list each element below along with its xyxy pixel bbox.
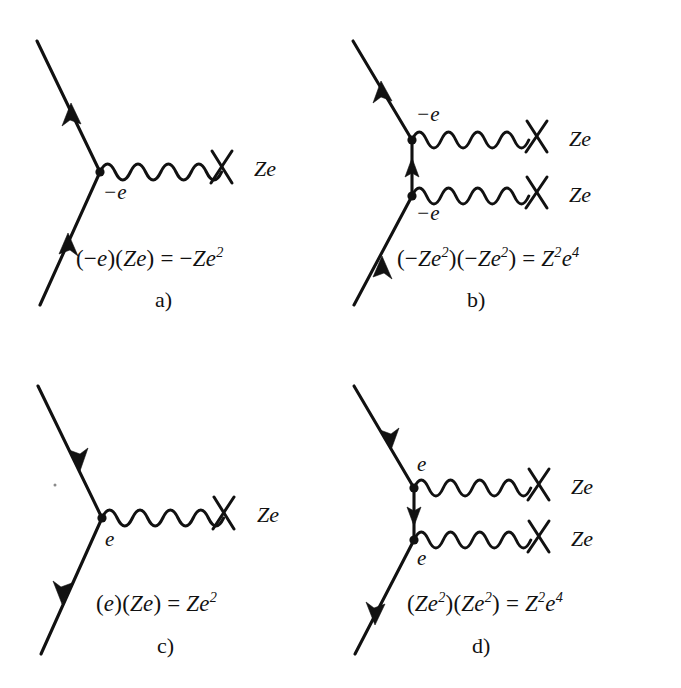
diagram-panel-a: −e Ze (−e)(Ze) = −Ze2 a) [0, 0, 340, 344]
lower-vertex-charge-label-e: e [417, 548, 426, 569]
formula-result-e-exponent: 4 [556, 589, 563, 605]
panel-a-formula: (−e)(Ze) = −Ze2 [76, 245, 223, 270]
lower-leg-arrow-icon [366, 602, 385, 625]
panel-b-formula: (−Ze2)(−Ze2) = Z2e4 [397, 245, 579, 270]
formula-close-open-paren: )( [114, 591, 130, 616]
lower-vertex-charge-label-minus-e: −e [416, 203, 440, 224]
lower-fermion-leg [355, 540, 414, 654]
formula-f1-e: e [431, 246, 441, 271]
formula-open-paren: (− [76, 246, 97, 271]
feynman-diagram-figure: −e Ze (−e)(Ze) = −Ze2 a) − [0, 0, 681, 688]
lower-interaction-vertex-dot [409, 535, 418, 544]
formula-result-e: e [199, 591, 209, 616]
scan-speck [54, 484, 57, 487]
upper-source-charge-label-ze: Ze [571, 476, 593, 498]
upper-photon-wavy-line [414, 480, 531, 496]
formula-result-Z: Z [193, 246, 206, 271]
upper-source-charge-label-ze: Ze [569, 128, 591, 150]
formula-result-Z: Z [541, 246, 554, 271]
formula-f2-e: e [474, 591, 484, 616]
formula-equals: ) = − [147, 246, 193, 271]
formula-result-exponent: 2 [210, 589, 217, 605]
lower-photon-wavy-line [414, 532, 531, 548]
vertex-charge-label-e: e [105, 529, 114, 550]
formula-f2-Z: Z [478, 246, 491, 271]
formula-f2-e: e [491, 246, 501, 271]
formula-f1-exponent: 2 [438, 589, 445, 605]
panel-d-canvas [341, 344, 681, 688]
interaction-vertex-dot [97, 513, 106, 522]
formula-result-Z: Z [525, 591, 538, 616]
formula-factor-e2: e [136, 246, 146, 271]
vertex-charge-label-minus-e: −e [103, 182, 127, 203]
formula-factor-e: e [97, 246, 107, 271]
upper-interaction-vertex-dot [407, 135, 416, 144]
formula-open-paren: ( [96, 591, 104, 616]
formula-f1-e: e [428, 591, 438, 616]
diagram-panel-c: e Ze (e)(Ze) = Ze2 c) [0, 344, 340, 688]
formula-close-open-paren: )( [107, 246, 123, 271]
formula-factor-Z: Z [123, 246, 136, 271]
upper-vertex-charge-label-e: e [417, 454, 426, 475]
diagram-panel-d: e e Ze Ze (Ze2)(Ze2) = Z2e4 d) [341, 344, 681, 688]
formula-equals: ) = [153, 591, 186, 616]
formula-f1-Z: Z [418, 246, 431, 271]
source-charge-label-ze: Ze [254, 158, 276, 180]
formula-result-e: e [562, 246, 572, 271]
formula-result-e: e [545, 591, 555, 616]
formula-result-Z-exponent: 2 [554, 244, 561, 260]
formula-result-e-exponent: 4 [572, 244, 579, 260]
photon-wavy-line [102, 510, 224, 526]
upper-leg-arrow-icon [380, 428, 399, 450]
upper-leg-arrow-icon [69, 448, 88, 471]
formula-f1-exponent: 2 [441, 244, 448, 260]
source-charge-label-ze: Ze [257, 504, 279, 526]
upper-photon-wavy-line [412, 132, 529, 148]
lower-source-charge-label-ze: Ze [571, 528, 593, 550]
formula-mid-parens: )( [446, 591, 462, 616]
formula-f2-Z: Z [461, 591, 474, 616]
panel-c-formula: (e)(Ze) = Ze2 [96, 590, 217, 615]
upper-interaction-vertex-dot [409, 483, 418, 492]
photon-wavy-line [100, 164, 222, 180]
formula-f1-Z: Z [415, 591, 428, 616]
panel-b-canvas [341, 0, 681, 344]
lower-fermion-leg [41, 518, 102, 654]
interaction-vertex-dot [95, 167, 104, 176]
lower-source-charge-label-ze: Ze [569, 184, 591, 206]
formula-result-exponent: 2 [216, 244, 223, 260]
panel-b-caption: b) [467, 289, 485, 311]
formula-open-paren: ( [407, 591, 415, 616]
upper-fermion-leg [37, 41, 100, 172]
panel-c-caption: c) [157, 635, 174, 657]
formula-open-paren: (− [397, 246, 418, 271]
diagram-panel-b: −e −e Ze Ze (−Ze2)(−Ze2) = Z2e4 b) [341, 0, 681, 344]
panel-a-caption: a) [155, 289, 172, 311]
upper-leg-arrow-icon [373, 81, 392, 103]
formula-result-e: e [206, 246, 216, 271]
formula-result-Z: Z [186, 591, 199, 616]
upper-leg-arrow-icon [62, 103, 81, 126]
formula-factor-e: e [104, 591, 114, 616]
lower-interaction-vertex-dot [407, 191, 416, 200]
formula-factor-Z: Z [130, 591, 143, 616]
formula-mid-parens: )(− [449, 246, 478, 271]
formula-factor-e2: e [143, 591, 153, 616]
formula-f2-exponent: 2 [485, 589, 492, 605]
panel-d-caption: d) [472, 635, 490, 657]
upper-vertex-charge-label-minus-e: −e [416, 104, 440, 125]
panel-d-formula: (Ze2)(Ze2) = Z2e4 [407, 590, 563, 615]
formula-equals: ) = [508, 246, 541, 271]
lower-leg-arrow-icon [373, 256, 392, 279]
formula-equals: ) = [492, 591, 525, 616]
